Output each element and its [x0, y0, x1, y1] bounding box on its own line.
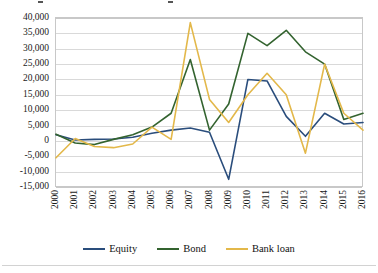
- x-tick-label: 2008: [204, 190, 214, 209]
- legend-divider: [2, 265, 376, 266]
- line-chart: 40,00035,00030,00025,00020,00015,00010,0…: [0, 0, 378, 273]
- legend-swatch-icon: [226, 248, 248, 250]
- x-tick-label: 2003: [108, 190, 118, 209]
- y-axis-tick-labels: 40,00035,00030,00025,00020,00015,00010,0…: [0, 17, 52, 187]
- legend-label: Bond: [183, 243, 206, 255]
- x-tick-label: 2012: [280, 190, 290, 209]
- x-tick-label: 2011: [261, 190, 271, 209]
- y-tick-label: 35,000: [23, 27, 49, 37]
- y-tick-label: 40,000: [23, 12, 49, 22]
- y-tick-label: 5,000: [28, 120, 49, 130]
- y-tick-label: -15,000: [20, 181, 49, 191]
- legend-item-bank-loan[interactable]: Bank loan: [226, 243, 295, 255]
- legend-swatch-icon: [157, 248, 179, 250]
- cropped-text-artifact: [0, 0, 378, 7]
- x-tick-label: 2001: [69, 190, 79, 209]
- y-tick-label: 25,000: [23, 58, 49, 68]
- x-tick-label: 2010: [242, 190, 252, 209]
- x-tick-label: 2016: [357, 190, 367, 209]
- x-tick-label: 2002: [88, 190, 98, 209]
- y-tick-label: 0: [44, 135, 49, 145]
- y-tick-label: 10,000: [23, 104, 49, 114]
- x-tick-label: 2004: [127, 190, 137, 209]
- x-tick-label: 2006: [165, 190, 175, 209]
- series-layer: [56, 18, 364, 188]
- plot-area: [55, 17, 363, 187]
- x-tick-label: 2013: [299, 190, 309, 209]
- x-tick-label: 2005: [146, 190, 156, 209]
- y-tick-label: 15,000: [23, 89, 49, 99]
- x-axis-tick-labels: 2000200120022003200420052006200720082009…: [55, 190, 363, 232]
- y-tick-label: 20,000: [23, 73, 49, 83]
- legend-label: Bank loan: [252, 243, 295, 255]
- legend-item-equity[interactable]: Equity: [83, 243, 137, 255]
- legend-swatch-icon: [83, 248, 105, 250]
- chart-legend: EquityBondBank loan: [0, 240, 378, 258]
- y-tick-label: -5,000: [24, 150, 49, 160]
- y-tick-label: 30,000: [23, 43, 49, 53]
- x-tick-label: 2007: [184, 190, 194, 209]
- x-tick-label: 2015: [338, 190, 348, 209]
- x-tick-label: 2000: [50, 190, 60, 209]
- legend-label: Equity: [109, 243, 137, 255]
- y-tick-label: -10,000: [20, 166, 49, 176]
- x-tick-label: 2014: [319, 190, 329, 209]
- series-line-bank-loan: [56, 23, 363, 158]
- x-tick-label: 2009: [223, 190, 233, 209]
- legend-item-bond[interactable]: Bond: [157, 243, 206, 255]
- series-line-bond: [56, 30, 363, 144]
